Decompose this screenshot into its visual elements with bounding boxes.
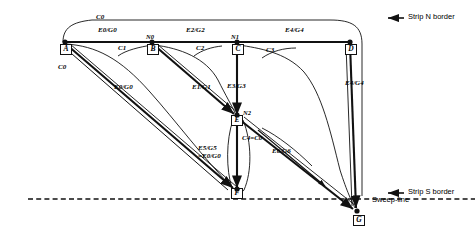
node-tag-n1: N1 [231,33,239,40]
edge-e-g-thin [244,117,356,206]
edge-label-c1: C1 [118,45,126,53]
node-a[interactable]: A [60,44,72,55]
node-e[interactable]: E [231,115,243,126]
edge-label-e2g2: E2/G2 [186,27,205,35]
node-tag-n0: N0 [146,33,154,40]
sweep-line-label: Sweep-line [372,195,409,204]
edge-label-e4g4-right: E4/G4 [345,80,364,88]
node-tag-n2: N2 [243,109,251,116]
edge-label-e0g0-left: E0/G0 [114,84,133,92]
node-f[interactable]: F [231,188,243,199]
strip-s-border-label: Strip S border [408,187,454,196]
edge-label-e4g4-top: E4/G4 [285,27,304,35]
edge-e-f-outer [238,120,250,193]
edge-label-eq-e0g0: =E0/G0 [198,153,221,161]
edge-label-e5g5-e0g0: E5/G5 =E0/G0 [198,145,221,160]
edge-label-e1g1: E1/G1 [192,84,211,92]
edge-label-e0g0-top: E0/G0 [98,27,117,35]
edge-b-e-thick [154,45,234,114]
node-g[interactable]: G [353,215,365,226]
diagram-root: A B C D E F G N0 N1 N2 C0 E0/G0 E2/G2 E4… [0,0,475,246]
node-b[interactable]: B [147,44,159,55]
strip-n-border-label: Strip N border [408,12,455,21]
edge-label-e6g6: E6/G6 [272,148,291,156]
edge-label-c2: C2 [196,45,204,53]
edge-c4-c0 [258,130,325,186]
edge-e-f-return [228,120,233,188]
edge-label-c0-left: C0 [58,64,66,72]
edge-b-e-thin [157,44,238,113]
edge-label-e3g3: E3/G3 [227,83,246,91]
node-d[interactable]: D [345,44,357,55]
edge-label-c3: C3 [266,47,274,55]
edge-label-c4c0: C4=C0 [242,135,262,143]
edge-label-c0-top: C0 [96,14,104,22]
edge-a-f-c0 [64,47,228,190]
node-c[interactable]: C [232,44,244,55]
